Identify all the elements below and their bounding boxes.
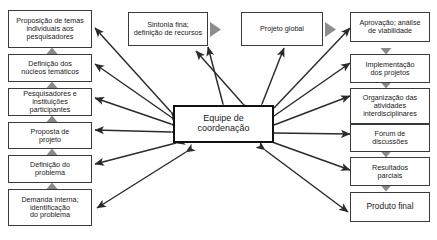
line-3: do problema: [19, 211, 80, 219]
line-2: problema: [28, 169, 72, 177]
node-forum-discussoes-text: Fórum de discussões: [368, 130, 412, 146]
node-produto-final[interactable]: Produto final: [350, 192, 430, 222]
node-demanda-interna-text: Demanda interna; identificação do proble…: [17, 196, 82, 219]
node-organizacao-atividades[interactable]: Organização das atividades interdiscipli…: [350, 88, 430, 124]
node-definicao-nucleos-text: Definição dos núcleos temáticos: [17, 60, 83, 76]
node-projeto-global[interactable]: Projeto global: [241, 12, 323, 46]
node-pesquisadores-instituicoes[interactable]: Pesquisadores e instituições participant…: [8, 88, 92, 116]
node-demanda-interna[interactable]: Demanda interna; identificação do proble…: [8, 189, 92, 226]
node-sintonia-fina-text: Sintonia fina; definição de recursos: [130, 21, 206, 37]
triangle-projeto-to-aprovacao: [325, 22, 336, 37]
arrow-center-sintonia-b: [196, 51, 243, 104]
node-organizacao-atividades-text: Organização das atividades interdiscipli…: [359, 94, 421, 117]
line-2: de viabilidade: [357, 27, 422, 35]
node-equipe-coordenacao-text: Equipe de coordenação: [193, 114, 253, 133]
node-implementacao-projetos-text: Implementação dos projetos: [361, 61, 418, 77]
node-proposta-projeto[interactable]: Proposta de projeto: [8, 122, 92, 149]
diagram-canvas: Proposição de temas individuais aos pesq…: [0, 0, 437, 240]
line-2: coordenação: [195, 124, 251, 134]
node-projeto-global-text: Projeto global: [256, 25, 308, 33]
node-definicao-nucleos[interactable]: Definição dos núcleos temáticos: [8, 54, 92, 82]
line-3: interdisciplinares: [361, 110, 419, 118]
line-3: pesquisadores: [14, 33, 86, 41]
node-pesquisadores-instituicoes-text: Pesquisadores e instituições participant…: [19, 90, 81, 113]
node-forum-discussoes[interactable]: Fórum de discussões: [350, 124, 430, 152]
line-1: Projeto global: [258, 25, 306, 33]
triangle-sintonia-to-projeto: [210, 22, 221, 37]
arrow-center-definicao-problema: [95, 143, 176, 164]
node-equipe-coordenacao[interactable]: Equipe de coordenação: [173, 105, 274, 143]
line-2: projeto: [29, 136, 72, 144]
line-2: núcleos temáticos: [19, 68, 81, 76]
node-produto-final-text: Produto final: [362, 202, 417, 211]
arrow-center-demanda: [97, 152, 186, 208]
arrow-center-implementacao: [274, 63, 350, 116]
node-implementacao-projetos[interactable]: Implementação dos projetos: [350, 54, 430, 83]
line-2: dos projetos: [363, 69, 416, 77]
line-3: participantes: [21, 106, 79, 114]
arrow-center-definicao-nucleos: [95, 64, 171, 117]
line-1: Produto final: [364, 202, 415, 211]
arrow-center-resultados: [272, 142, 350, 170]
node-aprovacao-viabilidade[interactable]: Aprovação; análise de viabilidade: [350, 12, 430, 42]
node-proposicao-temas-text: Proposição de temas individuais aos pesq…: [12, 17, 88, 40]
node-sintonia-fina[interactable]: Sintonia fina; definição de recursos: [128, 12, 208, 46]
line-2: parciais: [370, 172, 410, 180]
node-definicao-problema[interactable]: Definição do problema: [8, 155, 92, 183]
node-aprovacao-viabilidade-text: Aprovação; análise de viabilidade: [355, 19, 424, 35]
arrow-center-organizacao: [274, 96, 350, 125]
node-definicao-problema-text: Definição do problema: [26, 161, 74, 177]
node-proposicao-temas[interactable]: Proposição de temas individuais aos pesq…: [8, 10, 92, 48]
node-proposta-projeto-text: Proposta de projeto: [27, 128, 74, 144]
node-resultados-parciais-text: Resultados parciais: [368, 164, 412, 180]
line-2: definição de recursos: [132, 29, 204, 37]
arrow-center-proposta: [95, 130, 171, 132]
arrow-center-pesquisadores: [95, 98, 171, 124]
node-resultados-parciais[interactable]: Resultados parciais: [350, 157, 430, 186]
arrow-center-forum: [274, 133, 350, 134]
arrow-center-produto-final: [265, 150, 348, 212]
arrow-center-projeto-global: [262, 48, 284, 104]
line-2: discussões: [370, 138, 410, 146]
arrow-center-sintonia: [208, 47, 223, 104]
